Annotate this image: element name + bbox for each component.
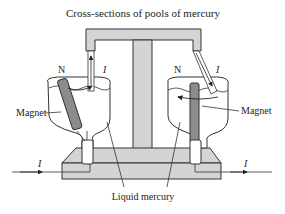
- right-current-label: I: [215, 64, 220, 75]
- diagram-title: Cross-sections of pools of mercury: [66, 7, 220, 19]
- left-bottom-electrode: [82, 140, 93, 164]
- central-pillar: [133, 40, 152, 160]
- right-bottom-electrode: [190, 140, 201, 164]
- homopolar-motor-diagram: Cross-sections of pools of mercury: [0, 0, 285, 214]
- right-north-label: N: [174, 64, 181, 75]
- liquid-mercury-label: Liquid mercury: [112, 191, 174, 202]
- right-magnet-label: Magnet: [241, 105, 272, 116]
- current-out-label: I: [243, 158, 248, 169]
- left-north-label: N: [58, 64, 65, 75]
- left-current-label: I: [102, 64, 107, 75]
- current-in-label: I: [37, 158, 42, 169]
- right-magnet: [190, 83, 199, 143]
- left-magnet-label: Magnet: [16, 107, 47, 118]
